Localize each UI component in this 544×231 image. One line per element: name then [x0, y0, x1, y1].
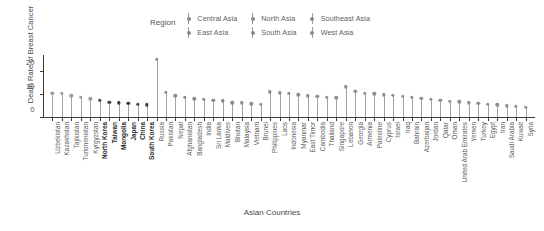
data-point[interactable]	[89, 97, 92, 100]
x-tick-label: Tajikistan	[74, 122, 80, 148]
data-point[interactable]	[316, 95, 319, 98]
chart-root: Region Central Asia East Asia North Asia…	[0, 0, 544, 231]
x-tick-label: Bahrain	[414, 122, 420, 144]
legend-item-east-asia[interactable]: East Asia	[184, 27, 237, 38]
data-point[interactable]	[164, 91, 167, 94]
data-point[interactable]	[60, 91, 63, 94]
data-point[interactable]	[372, 92, 375, 95]
x-tick	[138, 118, 139, 121]
data-point[interactable]	[70, 94, 73, 97]
lollipop-stem	[232, 103, 233, 118]
data-point[interactable]	[505, 104, 508, 107]
x-tick-label: Qatar	[443, 122, 449, 138]
data-point[interactable]	[325, 96, 328, 99]
x-tick-label: Myanmar	[301, 122, 307, 149]
data-point[interactable]	[486, 102, 489, 105]
data-point[interactable]	[268, 90, 271, 93]
lollipop-stem	[298, 95, 299, 117]
data-point[interactable]	[202, 97, 205, 100]
data-point[interactable]	[458, 100, 461, 103]
lollipop-stem	[374, 94, 375, 117]
x-tick-label: Maldives	[225, 122, 231, 147]
lollipop-stem	[421, 98, 422, 117]
data-point[interactable]	[249, 102, 252, 105]
x-tick	[308, 118, 309, 121]
lollipop-stem	[516, 106, 517, 117]
data-point[interactable]	[391, 94, 394, 97]
x-tick-label: Oman	[452, 122, 458, 139]
data-point[interactable]	[79, 95, 82, 98]
x-tick	[421, 118, 422, 121]
data-point[interactable]	[155, 58, 158, 61]
legend-marker-icon	[184, 13, 193, 24]
data-point[interactable]	[477, 102, 480, 105]
data-point[interactable]	[240, 101, 243, 104]
data-point[interactable]	[420, 96, 423, 99]
data-point[interactable]	[51, 92, 54, 95]
data-point[interactable]	[514, 105, 517, 108]
x-tick	[450, 118, 451, 121]
lollipop-stem	[213, 100, 214, 117]
data-point[interactable]	[306, 94, 309, 97]
data-point[interactable]	[410, 95, 413, 98]
data-point[interactable]	[382, 93, 385, 96]
data-point[interactable]	[136, 102, 139, 105]
data-point[interactable]	[145, 103, 148, 106]
x-tick	[317, 118, 318, 121]
data-point[interactable]	[401, 95, 404, 98]
data-point[interactable]	[448, 99, 451, 102]
x-tick-label: Jordan	[433, 122, 439, 142]
x-tick-label: Russia	[159, 122, 165, 142]
x-tick	[346, 118, 347, 121]
data-point[interactable]	[221, 99, 224, 102]
x-tick	[431, 118, 432, 121]
x-tick	[374, 118, 375, 121]
lollipop-stem	[185, 97, 186, 117]
data-point[interactable]	[467, 101, 470, 104]
data-point[interactable]	[429, 98, 432, 101]
legend-item-west-asia[interactable]: West Asia	[308, 27, 370, 38]
lollipop-stem	[507, 106, 508, 118]
data-point[interactable]	[259, 102, 262, 105]
y-tick-label: 0	[30, 105, 34, 114]
x-tick-label: Iraq	[405, 122, 411, 133]
data-point[interactable]	[231, 101, 234, 104]
data-point[interactable]	[278, 91, 281, 94]
data-point[interactable]	[297, 93, 300, 96]
x-tick-label: Lebanon	[348, 122, 354, 147]
legend-item-south-asia[interactable]: South Asia	[248, 27, 296, 38]
lollipop-stem	[355, 91, 356, 117]
data-point[interactable]	[193, 97, 196, 100]
x-tick-label: Bangladesh	[197, 122, 203, 156]
lollipop-stem	[308, 96, 309, 117]
x-tick-label: Syria	[528, 122, 534, 137]
x-tick-label: India	[206, 122, 212, 136]
data-point[interactable]	[98, 98, 101, 101]
data-point[interactable]	[174, 94, 177, 97]
data-point[interactable]	[183, 96, 186, 99]
data-point[interactable]	[126, 101, 129, 104]
lollipop-stem	[204, 99, 205, 117]
data-point[interactable]	[344, 85, 347, 88]
x-tick-label: Taiwan	[112, 122, 118, 143]
lollipop-stem	[450, 101, 451, 117]
data-point[interactable]	[335, 96, 338, 99]
data-point[interactable]	[495, 103, 498, 106]
data-point[interactable]	[354, 89, 357, 92]
x-axis-labels: UzbekistanKazakhstanTajikistanTurkmenist…	[43, 122, 535, 202]
lollipop-stem	[109, 102, 110, 117]
data-point[interactable]	[108, 101, 111, 104]
data-point[interactable]	[117, 101, 120, 104]
legend-item-central-asia[interactable]: Central Asia	[184, 13, 237, 24]
x-tick	[516, 118, 517, 121]
lollipop-stem	[71, 96, 72, 117]
data-point[interactable]	[363, 91, 366, 94]
lollipop-stem	[365, 93, 366, 117]
legend-item-southeast-asia[interactable]: Southeast Asia	[308, 13, 370, 24]
legend-item-north-asia[interactable]: North Asia	[248, 13, 296, 24]
x-tick	[261, 118, 262, 121]
data-point[interactable]	[439, 99, 442, 102]
data-point[interactable]	[524, 105, 527, 108]
data-point[interactable]	[287, 91, 290, 94]
data-point[interactable]	[212, 98, 215, 101]
